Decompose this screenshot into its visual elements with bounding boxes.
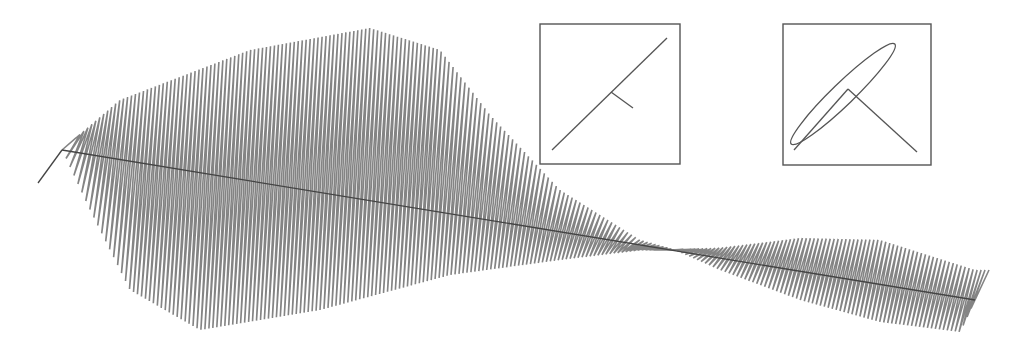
inset-linear-polarization	[540, 24, 680, 164]
axis-lead-in	[38, 150, 62, 183]
inset-elliptical-polarization	[783, 24, 931, 165]
wave-figure	[0, 0, 1010, 352]
